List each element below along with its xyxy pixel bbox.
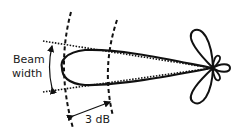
right-dashed-arc xyxy=(108,20,117,116)
beam-width-label-line1: Beam xyxy=(13,53,45,66)
left-dashed-arc xyxy=(64,12,73,128)
3db-label: 3 dB xyxy=(85,113,110,126)
beam-width-arrow xyxy=(50,46,53,88)
upper-side-lobe xyxy=(191,30,213,68)
main-lobe xyxy=(62,50,212,85)
lower-side-lobe xyxy=(191,68,213,103)
beam-width-label-line2: width xyxy=(12,67,42,80)
